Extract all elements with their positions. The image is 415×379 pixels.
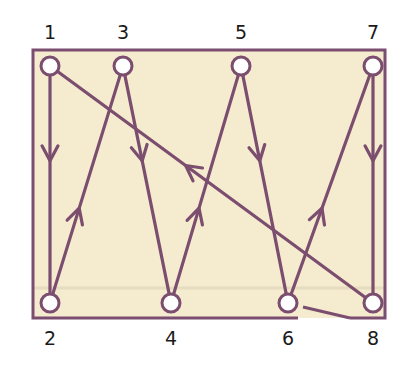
node-1: [41, 57, 59, 75]
zigzag-path-diagram: 12345678: [0, 0, 415, 379]
node-label-2: 2: [44, 327, 56, 349]
node-label-8: 8: [367, 327, 379, 349]
node-label-6: 6: [282, 327, 294, 349]
node-4: [162, 294, 180, 312]
node-6: [279, 294, 297, 312]
node-3: [114, 57, 132, 75]
node-label-3: 3: [117, 21, 129, 43]
node-label-1: 1: [44, 21, 56, 43]
node-label-5: 5: [235, 21, 247, 43]
node-2: [41, 294, 59, 312]
node-label-4: 4: [165, 327, 177, 349]
node-label-7: 7: [367, 21, 379, 43]
node-8: [364, 294, 382, 312]
node-5: [232, 57, 250, 75]
node-7: [364, 57, 382, 75]
